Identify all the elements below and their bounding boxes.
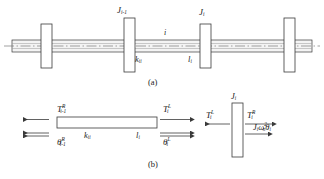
label-disc-j-i-minus-1: Ji-1 (117, 6, 127, 16)
label-length-li-panel-b: li (136, 131, 140, 140)
label-inertia-force-disc: Jiω2nθi (253, 122, 271, 132)
label-stiffness-kii-panel-b: kii (84, 131, 91, 140)
disc-element-body (232, 103, 243, 157)
label-segment-index-i: i (164, 29, 166, 37)
disc-rightmost (284, 18, 295, 72)
label-disc-element-j-i: Ji (231, 92, 236, 101)
caption-panel-a: (a) (148, 78, 157, 87)
label-stiffness-kii-panel-a: kii (135, 55, 142, 64)
label-torque-right-disc: TRi (247, 110, 253, 121)
label-disc-j-i: Ji (199, 8, 205, 18)
label-torque-right-shaft: TLi (163, 104, 169, 115)
label-torque-left-disc: TLi (206, 110, 212, 121)
label-angle-left-shaft: θRi-1 (57, 137, 66, 148)
disc-j-i-minus-1 (124, 18, 135, 72)
caption-panel-b: (b) (148, 160, 158, 169)
label-angle-right-shaft: θLi (163, 137, 168, 148)
shaft-element-body (57, 117, 157, 128)
torsional-system-figure (0, 0, 324, 179)
label-torque-left-shaft: TRi-1 (57, 104, 66, 115)
label-length-li-panel-a: li (188, 55, 192, 64)
disc-leftmost (41, 24, 52, 68)
disc-j-i (200, 24, 211, 68)
